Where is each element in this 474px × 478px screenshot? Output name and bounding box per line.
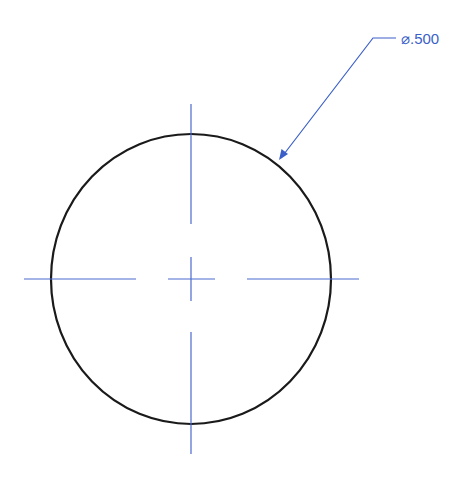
- diameter-dimension-label: ⌀.500: [401, 30, 439, 47]
- leader-line: [281, 38, 396, 158]
- dimension-leader: [279, 38, 396, 160]
- drawing-canvas: ⌀.500: [0, 0, 474, 478]
